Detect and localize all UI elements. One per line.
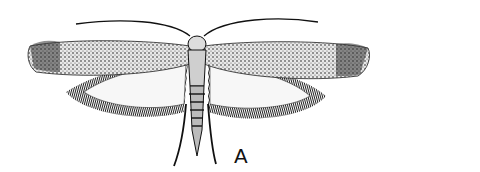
antennae [76, 19, 318, 36]
figure-label: A [234, 146, 248, 166]
moth-body [188, 36, 206, 156]
